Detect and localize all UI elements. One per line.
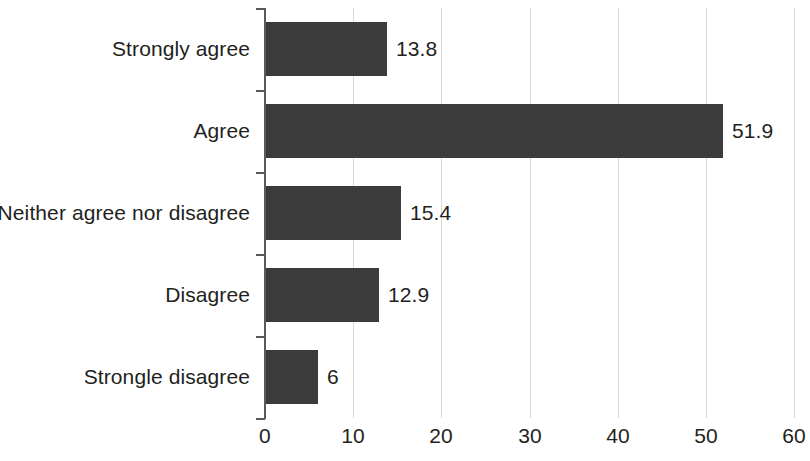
y-axis-tick — [256, 90, 265, 92]
x-axis-tick-label-10: 10 — [341, 424, 365, 448]
y-axis-tick — [256, 8, 265, 10]
bar-strongle-disagree[interactable] — [265, 350, 318, 404]
bar-agree[interactable] — [265, 104, 723, 158]
category-label-agree: Agree — [0, 119, 250, 143]
y-axis-tick — [256, 418, 265, 420]
category-label-strongly-agree: Strongly agree — [0, 37, 250, 61]
bar-value-label: 51.9 — [723, 119, 773, 143]
category-label-disagree: Disagree — [0, 283, 250, 307]
x-axis-tick-label-20: 20 — [429, 424, 453, 448]
bar-neither-agree-nor-disagree[interactable] — [265, 186, 401, 240]
category-label-neither-agree-nor-disagree: Neither agree nor disagree — [0, 201, 250, 225]
y-axis-tick — [256, 336, 265, 338]
bar-value-label: 6 — [318, 365, 339, 389]
y-axis-tick — [256, 254, 265, 256]
bar-value-label: 13.8 — [387, 37, 437, 61]
x-axis-tick-label-40: 40 — [606, 424, 630, 448]
x-axis-tick-label-0: 0 — [259, 424, 271, 448]
bar-value-label: 12.9 — [379, 283, 429, 307]
bar-value-label: 15.4 — [401, 201, 451, 225]
bar-band: 15.4 — [265, 172, 795, 254]
bar-strongly-agree[interactable] — [265, 22, 387, 76]
plot-area: 13.8 51.9 15.4 12.9 6 — [265, 8, 795, 418]
bar-band: 6 — [265, 336, 795, 418]
bar-band: 51.9 — [265, 90, 795, 172]
x-axis-tick-label-50: 50 — [694, 424, 718, 448]
bar-band: 13.8 — [265, 8, 795, 90]
y-axis-line — [264, 8, 266, 419]
y-axis-tick — [256, 172, 265, 174]
x-axis-tick-label-60: 60 — [782, 424, 806, 448]
bar-disagree[interactable] — [265, 268, 379, 322]
bar-band: 12.9 — [265, 254, 795, 336]
x-axis-tick-label-30: 30 — [518, 424, 542, 448]
category-label-strongle-disagree: Strongle disagree — [0, 365, 250, 389]
bar-chart: 13.8 51.9 15.4 12.9 6 Strongly agree Agr… — [0, 0, 810, 461]
